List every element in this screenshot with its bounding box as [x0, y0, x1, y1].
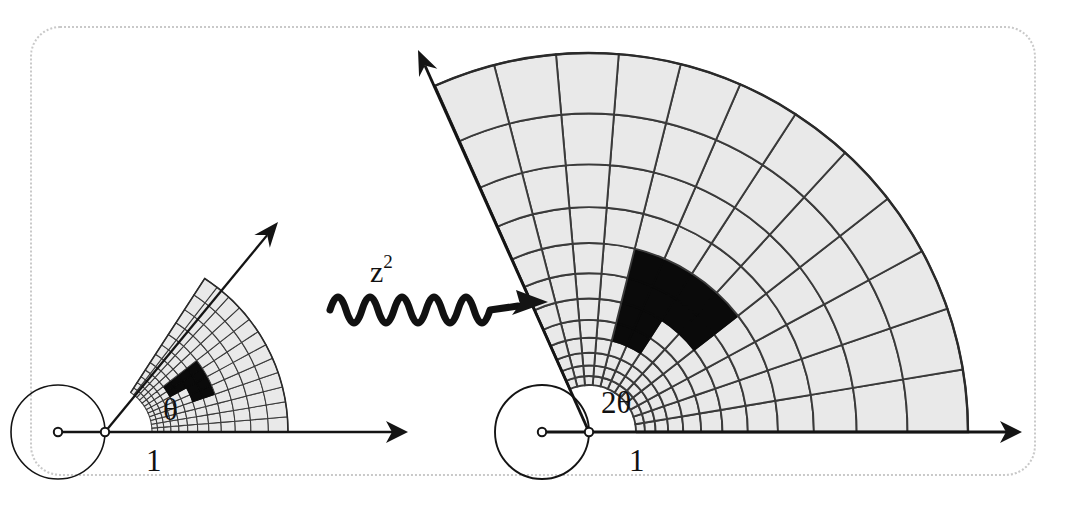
map-label-base: z: [370, 255, 383, 288]
map-label: z2: [370, 251, 393, 288]
range-unit-label: 1: [629, 443, 645, 478]
map-label-exponent: 2: [383, 251, 393, 272]
domain-unit-label: 1: [146, 443, 162, 478]
label-layer: θ 1 2θ 1 z2: [0, 0, 1068, 520]
figure-root: θ 1 2θ 1 z2: [0, 0, 1068, 520]
range-angle-label: 2θ: [601, 385, 631, 420]
domain-angle-label: θ: [163, 392, 178, 427]
